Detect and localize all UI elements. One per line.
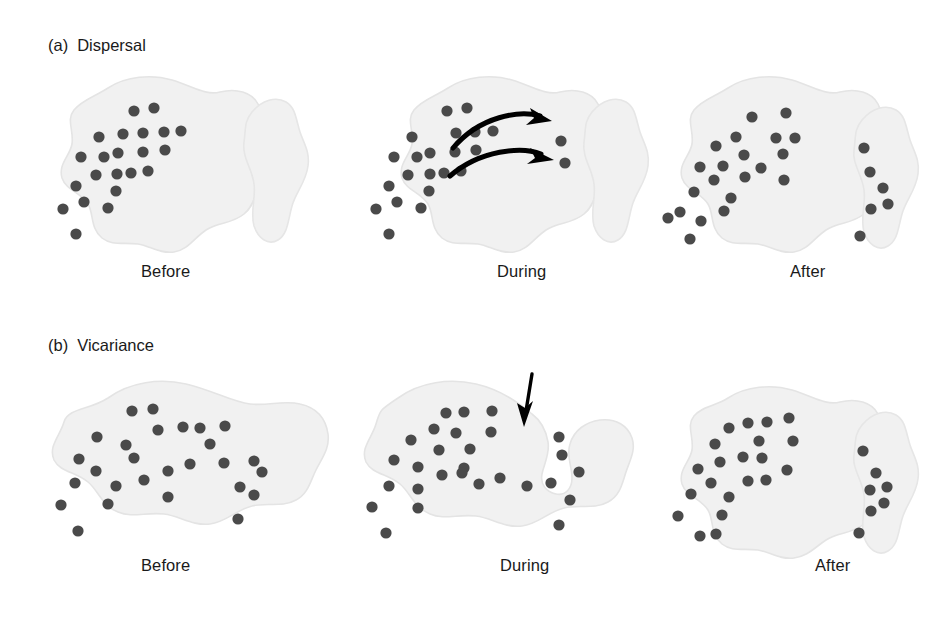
landmass-b-before [52,381,328,524]
landmass-a-during-island [584,99,649,242]
biogeography-figure: (a)Dispersal (b)Vicariance Before During… [0,0,946,625]
landmass-b-during [364,381,633,526]
figure-canvas [0,0,946,625]
landmass-a-before-island [244,99,309,242]
landmass-a-after-island [854,107,919,248]
